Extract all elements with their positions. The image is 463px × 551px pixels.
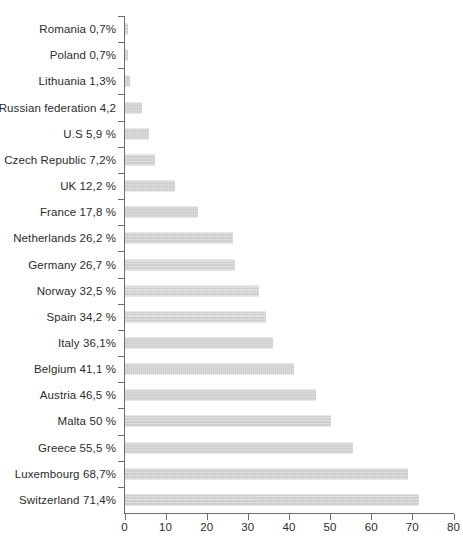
x-axis-tick-label: 50	[324, 521, 337, 533]
x-axis-tick-label: 10	[159, 521, 172, 533]
category-label: Norway 32,5 %	[37, 285, 116, 297]
y-axis-tick	[118, 199, 125, 200]
bar	[125, 24, 128, 35]
bar	[125, 337, 273, 348]
y-axis-tick	[118, 278, 125, 279]
bar	[125, 207, 198, 218]
x-axis-tick	[371, 514, 372, 520]
bar	[125, 102, 142, 113]
category-label: Lithuania 1,3%	[39, 75, 117, 87]
category-label: Netherlands 26,2 %	[13, 232, 116, 244]
bar	[125, 259, 235, 270]
y-axis-tick	[118, 382, 125, 383]
category-label: Spain 34,2 %	[46, 311, 116, 323]
y-axis-tick	[118, 487, 125, 488]
y-axis-tick	[118, 304, 125, 305]
x-axis-tick	[248, 514, 249, 520]
bar	[125, 285, 259, 296]
bar	[125, 468, 408, 479]
x-axis-tick-label: 20	[200, 521, 213, 533]
category-label: Germany 26,7 %	[28, 259, 116, 271]
y-axis-tick	[118, 173, 125, 174]
bar	[125, 154, 155, 165]
category-label: Italy 36,1%	[58, 337, 116, 349]
bar	[125, 364, 294, 375]
y-axis-tick	[118, 356, 125, 357]
y-axis-tick	[118, 94, 125, 95]
y-axis-tick	[118, 435, 125, 436]
bar	[125, 181, 175, 192]
category-label: Malta 50 %	[57, 415, 116, 427]
x-axis-tick-label: 80	[447, 521, 460, 533]
bar	[125, 50, 128, 61]
category-label: Poland 0,7%	[50, 49, 116, 61]
y-axis-tick	[118, 42, 125, 43]
x-axis-tick-label: 40	[282, 521, 295, 533]
bar	[125, 416, 331, 427]
bar	[125, 494, 419, 505]
x-axis-tick	[125, 514, 126, 520]
category-label: Luxembourg 68,7%	[15, 468, 116, 480]
bar-chart: 01020304050607080 Romania 0,7%Poland 0,7…	[0, 0, 463, 551]
y-axis-tick	[118, 330, 125, 331]
category-label: France 17,8 %	[40, 206, 116, 218]
x-axis-tick-label: 70	[406, 521, 419, 533]
bar	[125, 390, 316, 401]
y-axis-tick	[118, 16, 125, 17]
bar	[125, 311, 266, 322]
y-axis-tick	[118, 68, 125, 69]
x-axis-tick	[412, 514, 413, 520]
y-axis-tick	[118, 408, 125, 409]
category-label: Austria 46,5 %	[40, 389, 116, 401]
y-axis-tick	[118, 121, 125, 122]
x-axis-tick	[454, 514, 455, 520]
y-axis-tick	[118, 147, 125, 148]
x-axis-tick-label: 30	[241, 521, 254, 533]
y-axis-tick	[118, 461, 125, 462]
category-label: Belgium 41,1 %	[34, 363, 116, 375]
y-axis-tick	[118, 225, 125, 226]
y-axis-tick	[118, 251, 125, 252]
x-axis-tick	[330, 514, 331, 520]
category-label: Greece 55,5 %	[38, 442, 116, 454]
category-label: Czech Republic 7,2%	[4, 154, 116, 166]
category-label: Romania 0,7%	[39, 23, 116, 35]
bar	[125, 76, 130, 87]
bar	[125, 233, 233, 244]
category-label: Russian federation 4,2	[0, 102, 116, 114]
x-axis-tick-label: 60	[365, 521, 378, 533]
category-label: Switzerland 71,4%	[19, 494, 116, 506]
x-axis-tick	[166, 514, 167, 520]
plot-area: 01020304050607080 Romania 0,7%Poland 0,7…	[0, 0, 463, 551]
category-label: U.S 5,9 %	[63, 128, 116, 140]
x-axis-tick-label: 0	[121, 521, 128, 533]
category-label: UK 12,2 %	[60, 180, 116, 192]
x-axis-tick	[289, 514, 290, 520]
bar	[125, 128, 149, 139]
bar	[125, 442, 353, 453]
x-axis-tick	[207, 514, 208, 520]
